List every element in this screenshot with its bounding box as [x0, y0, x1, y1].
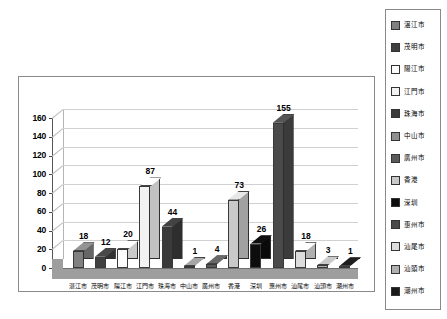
- gridline: [63, 203, 358, 204]
- bar-value-label: 87: [133, 167, 167, 176]
- legend-item-label: 汕尾市: [404, 243, 425, 251]
- bar-column[interactable]: [339, 266, 350, 268]
- legend-item-label: 潮州市: [404, 287, 425, 295]
- bar-value-label: 18: [289, 232, 323, 241]
- gridline: [63, 222, 358, 223]
- bar-front-face: [250, 244, 261, 268]
- legend-swatch: [391, 109, 400, 118]
- legend-item-label: 汕頭市: [404, 265, 425, 273]
- legend-swatch: [391, 287, 400, 296]
- bar-front-face: [228, 200, 239, 268]
- gridline: [63, 128, 358, 129]
- legend-item[interactable]: 珠海市: [389, 103, 437, 125]
- bar-column[interactable]: [139, 186, 150, 268]
- bar-top-face: [317, 256, 339, 265]
- bar-value-label: 73: [222, 181, 256, 190]
- gridline: [63, 147, 358, 148]
- y-axis-tick-label: 0: [22, 264, 46, 273]
- y-axis-tick-label: 140: [22, 132, 46, 141]
- bar-front-face: [295, 251, 306, 268]
- bar-column[interactable]: [250, 244, 261, 268]
- gridline: [63, 165, 358, 166]
- y-axis-tick-label: 80: [22, 189, 46, 198]
- legend-item-label: 湛江市: [404, 21, 425, 29]
- legend-item[interactable]: 茂明市: [389, 36, 437, 58]
- legend-item[interactable]: 廣州市: [389, 147, 437, 169]
- legend-item[interactable]: 中山市: [389, 125, 437, 147]
- legend-item[interactable]: 惠州市: [389, 214, 437, 236]
- legend-swatch: [391, 176, 400, 185]
- legend-swatch: [391, 87, 400, 96]
- bar-front-face: [273, 123, 284, 268]
- bar-column[interactable]: [295, 251, 306, 268]
- legend-item-label: 茂明市: [404, 43, 425, 51]
- legend-swatch: [391, 265, 400, 274]
- bar-front-face: [139, 186, 150, 268]
- y-axis-tick-label: 120: [22, 151, 46, 160]
- legend-swatch: [391, 198, 400, 207]
- legend-item-label: 廣州市: [404, 154, 425, 162]
- legend-item-label: 珠海市: [404, 110, 425, 118]
- bar-front-face: [73, 251, 84, 268]
- x-axis-tick-label: 潮州市: [328, 282, 362, 290]
- legend-item-label: 深圳: [404, 199, 418, 207]
- legend-swatch: [391, 43, 400, 52]
- legend-item-label: 中山市: [404, 132, 425, 140]
- legend-item-label: 陽江市: [404, 65, 425, 73]
- axis-depth-line: [52, 165, 64, 175]
- bar-top-face: [184, 257, 206, 266]
- y-axis-tick-label: 60: [22, 207, 46, 216]
- bar-column[interactable]: [317, 265, 328, 268]
- bar-value-label: 44: [156, 208, 190, 217]
- legend-swatch: [391, 21, 400, 30]
- bar-column[interactable]: [273, 123, 284, 268]
- bar-front-face: [95, 257, 106, 268]
- legend-item[interactable]: 江門市: [389, 81, 437, 103]
- legend-item[interactable]: 湛江市: [389, 14, 437, 36]
- legend: 湛江市茂明市陽江市江門市珠海市中山市廣州市香港深圳惠州市汕尾市汕頭市潮州市: [385, 9, 441, 310]
- legend-item[interactable]: 潮州市: [389, 280, 437, 302]
- legend-swatch: [391, 242, 400, 251]
- axis-depth-line: [52, 128, 64, 138]
- y-axis-tick-label: 20: [22, 245, 46, 254]
- bar-front-face: [117, 249, 128, 268]
- y-axis-tick-label: 100: [22, 170, 46, 179]
- legend-item[interactable]: 汕尾市: [389, 236, 437, 258]
- bar-top-face: [206, 255, 228, 264]
- bar-front-face: [162, 227, 173, 268]
- legend-item[interactable]: 陽江市: [389, 58, 437, 80]
- bar-front-face: [184, 266, 195, 268]
- legend-swatch: [391, 65, 400, 74]
- bar-column[interactable]: [95, 257, 106, 268]
- legend-item[interactable]: 汕頭市: [389, 258, 437, 280]
- axis-depth-line: [52, 184, 64, 194]
- legend-swatch: [391, 132, 400, 141]
- legend-item-label: 香港: [404, 176, 418, 184]
- bar-column[interactable]: [228, 200, 239, 268]
- bar-front-face: [317, 265, 328, 268]
- bar-column[interactable]: [162, 227, 173, 268]
- bar-value-label: 155: [267, 104, 301, 113]
- bar-column[interactable]: [73, 251, 84, 268]
- bar-chart: 020406080100120140160 181220874414732615…: [18, 76, 375, 292]
- bar-value-label: 1: [333, 247, 367, 256]
- legend-item[interactable]: 深圳: [389, 192, 437, 214]
- gridline: [63, 184, 358, 185]
- axis-depth-line: [52, 109, 64, 119]
- legend-item-label: 惠州市: [404, 221, 425, 229]
- bar-side-face: [149, 177, 160, 259]
- bar-column[interactable]: [117, 249, 128, 268]
- legend-swatch: [391, 220, 400, 229]
- bar-top-face: [339, 257, 361, 266]
- axis-depth-line: [52, 203, 64, 213]
- bar-column[interactable]: [206, 264, 217, 268]
- axis-depth-line: [52, 222, 64, 232]
- axis-depth-line: [52, 147, 64, 157]
- y-axis-tick-label: 160: [22, 114, 46, 123]
- chart-floor: [52, 268, 358, 279]
- y-axis-tick-label: 40: [22, 226, 46, 235]
- bar-column[interactable]: [184, 266, 195, 268]
- chart-screenshot: 020406080100120140160 181220874414732615…: [0, 0, 447, 319]
- legend-item[interactable]: 香港: [389, 169, 437, 191]
- bar-front-face: [206, 264, 217, 268]
